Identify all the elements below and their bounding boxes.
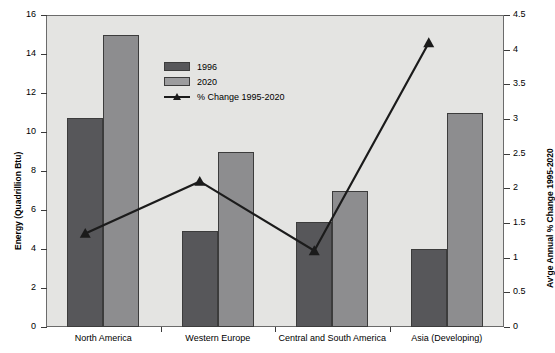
y-tick-label-left: 16 [6, 9, 36, 19]
y-tick-label-left: 2 [6, 282, 36, 292]
y-tick-mark-left [41, 288, 47, 289]
y-tick-mark-left [41, 15, 47, 16]
x-axis-category-label: North America [46, 333, 161, 343]
y-tick-label-left: 0 [6, 321, 36, 331]
x-tick-mark [390, 327, 391, 332]
y-tick-mark-right [504, 223, 510, 224]
y-tick-mark-left [41, 54, 47, 55]
legend-item-1996: 1996 [164, 60, 285, 73]
bar-1996 [296, 222, 332, 327]
y-tick-label-right: 1.5 [513, 217, 543, 227]
x-axis-category-label: Asia (Developing) [390, 333, 505, 343]
y-tick-mark-left [41, 327, 47, 328]
legend-swatch-2020 [164, 77, 190, 86]
bar-2020 [332, 191, 368, 328]
y-tick-mark-left [41, 132, 47, 133]
x-tick-mark [161, 327, 162, 332]
y-tick-label-right: 4.5 [513, 9, 543, 19]
y-tick-label-right: 3 [513, 113, 543, 123]
y-tick-label-left: 6 [6, 204, 36, 214]
legend-label-percent-change: % Change 1995-2020 [197, 92, 285, 102]
y-tick-mark-right [504, 327, 510, 328]
y-tick-label-right: 2 [513, 182, 543, 192]
bar-1996 [182, 231, 218, 327]
legend-label-1996: 1996 [197, 62, 217, 72]
y-tick-mark-left [41, 210, 47, 211]
y-tick-mark-right [504, 15, 510, 16]
y-tick-label-right: 0.5 [513, 286, 543, 296]
y-tick-mark-left [41, 249, 47, 250]
y-tick-label-right: 1 [513, 252, 543, 262]
bar-1996 [67, 118, 103, 327]
legend: 1996 2020 % Change 1995-2020 [164, 60, 285, 105]
y-tick-mark-right [504, 292, 510, 293]
y-tick-mark-right [504, 258, 510, 259]
y-tick-label-right: 0 [513, 321, 543, 331]
y-tick-mark-left [41, 171, 47, 172]
y-tick-label-right: 3.5 [513, 78, 543, 88]
y-tick-label-left: 10 [6, 126, 36, 136]
bar-1996 [411, 249, 447, 327]
y-tick-label-left: 4 [6, 243, 36, 253]
legend-item-2020: 2020 [164, 75, 285, 88]
y-tick-mark-right [504, 50, 510, 51]
y-tick-mark-right [504, 119, 510, 120]
legend-swatch-1996 [164, 62, 190, 71]
y-tick-label-left: 8 [6, 165, 36, 175]
y-axis-right-title: Av'ge Annual % Change 1995-2020 [545, 148, 555, 288]
legend-label-2020: 2020 [197, 77, 217, 87]
x-axis-category-label: Western Europe [161, 333, 276, 343]
y-tick-mark-right [504, 84, 510, 85]
y-tick-mark-left [41, 93, 47, 94]
y-tick-label-right: 2.5 [513, 148, 543, 158]
y-tick-mark-right [504, 188, 510, 189]
y-tick-label-left: 14 [6, 48, 36, 58]
bar-2020 [218, 152, 254, 328]
x-tick-mark [275, 327, 276, 332]
y-tick-mark-right [504, 154, 510, 155]
legend-line-marker-icon [164, 92, 190, 101]
y-tick-label-left: 12 [6, 87, 36, 97]
bar-2020 [103, 35, 139, 328]
x-axis-category-label: Central and South America [275, 333, 390, 343]
legend-item-percent-change: % Change 1995-2020 [164, 90, 285, 103]
y-tick-label-right: 4 [513, 44, 543, 54]
legend-triangle-marker-icon [173, 93, 181, 100]
bar-2020 [447, 113, 483, 328]
